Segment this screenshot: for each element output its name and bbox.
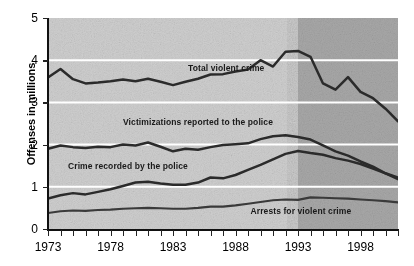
crime-trends-line-chart: Offenses in millions Total violent crime… (0, 0, 414, 266)
y-axis-tick-label: 1 (14, 181, 38, 193)
x-axis-tick-label: 1978 (87, 241, 135, 253)
x-axis-tick (61, 230, 62, 236)
x-axis-tick (273, 230, 274, 236)
x-axis-tick (286, 230, 287, 236)
x-axis-tick (186, 230, 187, 236)
x-axis-tick-label: 1993 (274, 241, 322, 253)
y-axis-tick (43, 18, 48, 19)
series-label-arrests: Arrests for violent crime (251, 206, 352, 216)
x-axis-tick-label: 1983 (149, 241, 197, 253)
series-label-crime-recorded: Crime recorded by the police (68, 161, 188, 171)
series-label-victimizations-reported: Victimizations reported to the police (123, 117, 273, 127)
x-axis-tick-label: 1988 (212, 241, 260, 253)
series-line-2 (48, 151, 398, 199)
x-axis-tick (123, 230, 124, 236)
x-axis-tick (373, 230, 374, 236)
x-axis-tick (198, 230, 199, 236)
x-axis-tick (336, 230, 337, 236)
x-axis-tick (386, 230, 387, 236)
x-axis-tick (211, 230, 212, 236)
y-axis-tick-label: 3 (14, 96, 38, 108)
y-axis-tick-label: 4 (14, 54, 38, 66)
x-axis-tick (248, 230, 249, 236)
series-label-total-violent-crime: Total violent crime (188, 63, 264, 73)
x-axis-tick (323, 230, 324, 236)
x-axis-tick (148, 230, 149, 236)
y-axis-tick (43, 145, 48, 146)
x-axis-tick (361, 230, 362, 236)
x-axis-tick (223, 230, 224, 236)
x-axis-tick (173, 230, 174, 236)
x-axis-tick (111, 230, 112, 236)
x-axis-tick (98, 230, 99, 236)
y-axis-tick-label: 0 (14, 223, 38, 235)
x-axis-tick (311, 230, 312, 236)
x-axis-tick (136, 230, 137, 236)
x-axis-tick (86, 230, 87, 236)
x-axis-tick-label: 1973 (24, 241, 72, 253)
x-axis-tick (398, 230, 399, 236)
x-axis-tick (348, 230, 349, 236)
x-axis-tick (73, 230, 74, 236)
x-axis-tick (236, 230, 237, 236)
x-axis-tick (261, 230, 262, 236)
x-axis-tick (161, 230, 162, 236)
x-axis-tick (48, 230, 49, 236)
y-axis-tick (43, 187, 48, 188)
y-axis-tick-label: 2 (14, 139, 38, 151)
y-axis-tick (43, 60, 48, 61)
y-axis-tick-label: 5 (14, 12, 38, 24)
plot-area: Total violent crime Victimizations repor… (48, 18, 398, 229)
series-line-1 (48, 135, 398, 179)
y-axis-tick (43, 102, 48, 103)
x-axis-tick (298, 230, 299, 236)
series-line-0 (48, 51, 398, 121)
x-axis-tick-label: 1998 (337, 241, 385, 253)
y-axis-line (47, 18, 49, 230)
